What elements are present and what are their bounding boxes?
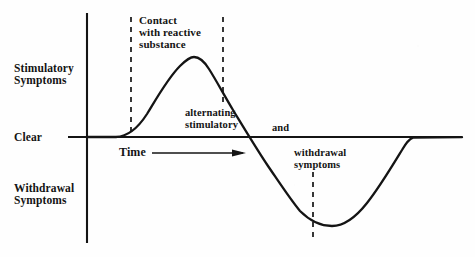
y-label-stimulatory-line1: Stimulatory	[14, 62, 74, 74]
time-arrow-head	[232, 150, 246, 157]
annotation-withdrawal: withdrawal symptoms	[294, 147, 346, 171]
annotation-conjunction: and	[272, 122, 289, 134]
annotation-alternating-line1: alternating	[185, 107, 238, 119]
annotation-withdrawal-line2: symptoms	[294, 159, 346, 171]
annotation-alternating: alternating stimulatory	[185, 107, 238, 131]
annotation-alternating-line2: stimulatory	[185, 119, 238, 131]
annotation-withdrawal-line1: withdrawal	[294, 147, 346, 159]
y-label-withdrawal-line1: Withdrawal	[14, 182, 74, 194]
y-label-withdrawal: Withdrawal Symptoms	[14, 182, 74, 206]
annotation-contact-line3: substance	[139, 38, 201, 50]
y-label-clear-line1: Clear	[14, 131, 42, 143]
annotation-contact: Contact with reactive substance	[139, 14, 201, 50]
annotation-contact-line1: Contact	[139, 14, 201, 26]
y-label-stimulatory-line2: Symptoms	[14, 74, 74, 86]
symptom-response-figure: Stimulatory Symptoms Clear Withdrawal Sy…	[0, 0, 475, 257]
symptom-curve	[87, 57, 462, 226]
y-label-stimulatory: Stimulatory Symptoms	[14, 62, 74, 86]
y-label-clear: Clear	[14, 131, 42, 143]
annotation-contact-line2: with reactive	[139, 26, 201, 38]
x-axis-label-time: Time	[119, 146, 146, 158]
y-label-withdrawal-line2: Symptoms	[14, 194, 74, 206]
